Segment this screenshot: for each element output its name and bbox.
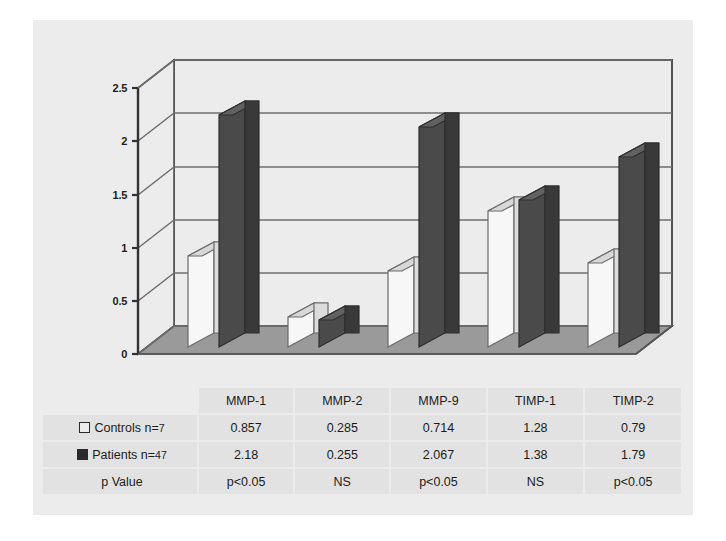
- legend-patients: Patients n=47: [43, 442, 197, 467]
- cell-pvalue-mmp-1: p<0.05: [199, 469, 293, 494]
- bar-chart-3d: 2.5 2 1.5 1 0.5 0: [33, 20, 693, 380]
- y-tick-label-1.5: 1.5: [99, 189, 127, 201]
- cell-pvalue-mmp-2: NS: [295, 469, 389, 494]
- chart-canvas: [33, 20, 693, 380]
- table-header-mmp-2: MMP-2: [295, 388, 389, 413]
- cell-controls-timp-1: 1.28: [488, 415, 584, 440]
- cell-controls-timp-2: 0.79: [585, 415, 681, 440]
- open-square-icon: [79, 422, 90, 433]
- table-header-timp-1: TIMP-1: [488, 388, 584, 413]
- pvalue-row-label: p Value: [43, 469, 197, 494]
- legend-controls-count: 7: [159, 422, 165, 434]
- cell-pvalue-mmp-9: p<0.05: [391, 469, 485, 494]
- cell-patients-timp-1: 1.38: [488, 442, 584, 467]
- cell-patients-mmp-2: 0.255: [295, 442, 389, 467]
- cell-pvalue-timp-1: NS: [488, 469, 584, 494]
- bar-patients-timp-1: [519, 186, 559, 347]
- bar-patients-mmp-9: [419, 113, 459, 347]
- table-header-mmp-1: MMP-1: [199, 388, 293, 413]
- table-corner-cell: [43, 388, 197, 413]
- bar-patients-timp-2: [619, 143, 659, 347]
- table-header-row: MMP-1 MMP-2 MMP-9 TIMP-1 TIMP-2: [43, 388, 681, 413]
- table-header-mmp-9: MMP-9: [391, 388, 485, 413]
- table-row-pvalue: p Value p<0.05 NS p<0.05 NS p<0.05: [43, 469, 681, 494]
- legend-controls-label: Controls n=: [94, 421, 158, 435]
- cell-patients-mmp-9: 2.067: [391, 442, 485, 467]
- cell-pvalue-timp-2: p<0.05: [585, 469, 681, 494]
- chart-left-wall: [138, 60, 174, 354]
- legend-controls: Controls n=7: [43, 415, 197, 440]
- filled-square-icon: [77, 449, 88, 460]
- legend-patients-label: Patients n=: [92, 448, 155, 462]
- y-tick-label-0: 0: [99, 348, 127, 360]
- table-header-timp-2: TIMP-2: [585, 388, 681, 413]
- legend-patients-count: 47: [155, 449, 167, 461]
- y-tick-label-1: 1: [99, 242, 127, 254]
- y-tick-label-2: 2: [99, 135, 127, 147]
- figure-panel: 2.5 2 1.5 1 0.5 0 MMP-1 MMP-2 MMP-9 TIMP…: [33, 20, 693, 515]
- table-row-patients: Patients n=47 2.18 0.255 2.067 1.38 1.79: [43, 442, 681, 467]
- cell-patients-timp-2: 1.79: [585, 442, 681, 467]
- cell-patients-mmp-1: 2.18: [199, 442, 293, 467]
- table-row-controls: Controls n=7 0.857 0.285 0.714 1.28 0.79: [43, 415, 681, 440]
- data-table: MMP-1 MMP-2 MMP-9 TIMP-1 TIMP-2 Controls…: [41, 386, 683, 496]
- y-tick-label-0.5: 0.5: [99, 295, 127, 307]
- cell-controls-mmp-9: 0.714: [391, 415, 485, 440]
- cell-controls-mmp-2: 0.285: [295, 415, 389, 440]
- cell-controls-mmp-1: 0.857: [199, 415, 293, 440]
- bar-patients-mmp-1: [219, 101, 259, 347]
- y-tick-label-2.5: 2.5: [99, 82, 127, 94]
- bar-group-timp-1: [488, 186, 559, 347]
